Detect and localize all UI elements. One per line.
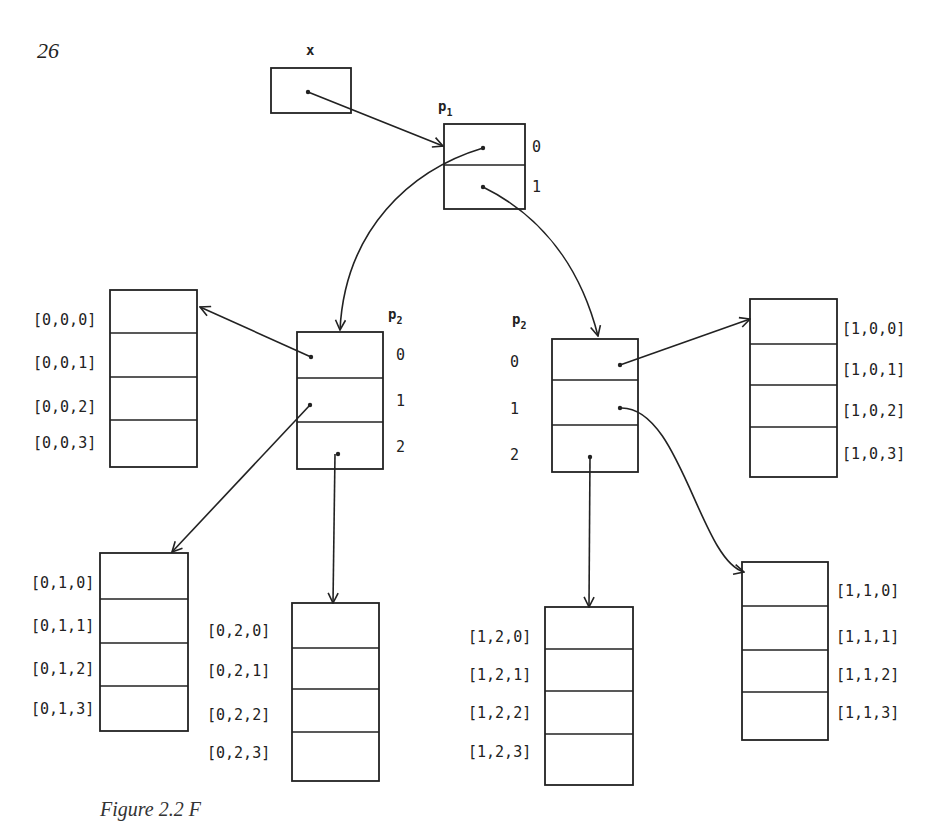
p2-right-index-1: 1 [510,400,519,418]
p2-left-index-1: 1 [396,392,405,410]
leaf-array-1-2: [1,2,0] [1,2,1] [1,2,2] [1,2,3] [468,607,633,785]
leaf-array-0-1: [0,1,0] [0,1,1] [0,1,2] [0,1,3] [31,553,188,731]
cell-label: [1,1,1] [836,628,899,646]
p1-0-arrow [340,148,483,330]
cell-label: [1,0,3] [842,445,905,463]
cell-label: [0,2,0] [207,622,270,640]
p2-right-label: p2 [512,311,526,331]
x-box [271,68,351,113]
cell-label: [0,0,1] [33,354,96,372]
cell-label: [1,1,2] [836,666,899,684]
cell-label: [0,1,1] [31,617,94,635]
cell-label: [0,0,0] [33,311,96,329]
cell-label: [0,1,2] [31,660,94,678]
p2-left-index-0: 0 [396,346,405,364]
p2-right-box [552,339,638,472]
cell-label: [1,2,2] [468,704,531,722]
p2-right-2-arrow [589,457,590,607]
p2-left-1-arrow [172,405,310,552]
p1-index-0: 0 [532,138,541,156]
p1-index-1: 1 [532,178,541,196]
cell-label: [0,1,3] [31,700,94,718]
cell-label: [1,1,3] [836,704,899,722]
leaf-array-0-2: [0,2,0] [0,2,1] [0,2,2] [0,2,3] [207,603,379,781]
cell-label: [1,2,3] [468,743,531,761]
cell-label: [1,0,1] [842,361,905,379]
p2-right-0-arrow [620,319,750,365]
cell-label: [0,2,3] [207,744,270,762]
cell-label: [1,2,1] [468,666,531,684]
x-label: x [306,42,315,58]
figure-caption: Figure 2.2 F [100,798,201,821]
p2-right-index-0: 0 [510,353,519,371]
cell-label: [1,0,0] [842,320,905,338]
p1-box [444,124,525,209]
cell-label: [0,0,3] [33,434,96,452]
cell-label: [0,2,1] [207,662,270,680]
cell-label: [0,1,0] [31,574,94,592]
p2-left-2-arrow [333,454,335,603]
p2-left-box [297,332,383,469]
x-to-p1-arrow [308,92,443,146]
cell-label: [0,0,2] [33,398,96,416]
leaf-array-1-1: [1,1,0] [1,1,1] [1,1,2] [1,1,3] [742,562,899,740]
p2-right-index-2: 2 [510,446,519,464]
cell-label: [1,0,2] [842,402,905,420]
p2-left-index-2: 2 [396,438,405,456]
cell-label: [1,1,0] [836,582,899,600]
cell-label: [0,2,2] [207,706,270,724]
leaf-array-1-0: [1,0,0] [1,0,1] [1,0,2] [1,0,3] [750,299,905,477]
p2-left-0-arrow [200,307,311,357]
leaf-array-0-0: [0,0,0] [0,0,1] [0,0,2] [0,0,3] [33,290,197,467]
p2-left-label: p2 [388,306,402,326]
p1-label: p1 [438,98,452,118]
cell-label: [1,2,0] [468,628,531,646]
